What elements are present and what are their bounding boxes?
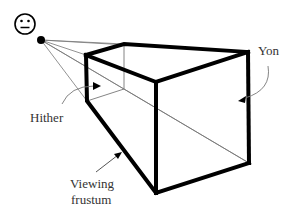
frustum-label-line2: frustum	[71, 193, 111, 207]
eye-point	[37, 36, 45, 44]
hither-plane	[87, 44, 249, 163]
yon-label: Yon	[258, 44, 279, 58]
hither-label: Hither	[30, 111, 63, 125]
viewing-frustum-diagram: Yon Hither Viewing frustum	[0, 0, 300, 217]
frustum-label-line1: Viewing	[70, 177, 114, 191]
yon-leader	[238, 66, 269, 103]
hither-leader	[62, 82, 101, 104]
frustum-leader	[96, 152, 122, 172]
neutral-face-icon	[15, 14, 35, 34]
frustum-edges	[86, 44, 249, 193]
